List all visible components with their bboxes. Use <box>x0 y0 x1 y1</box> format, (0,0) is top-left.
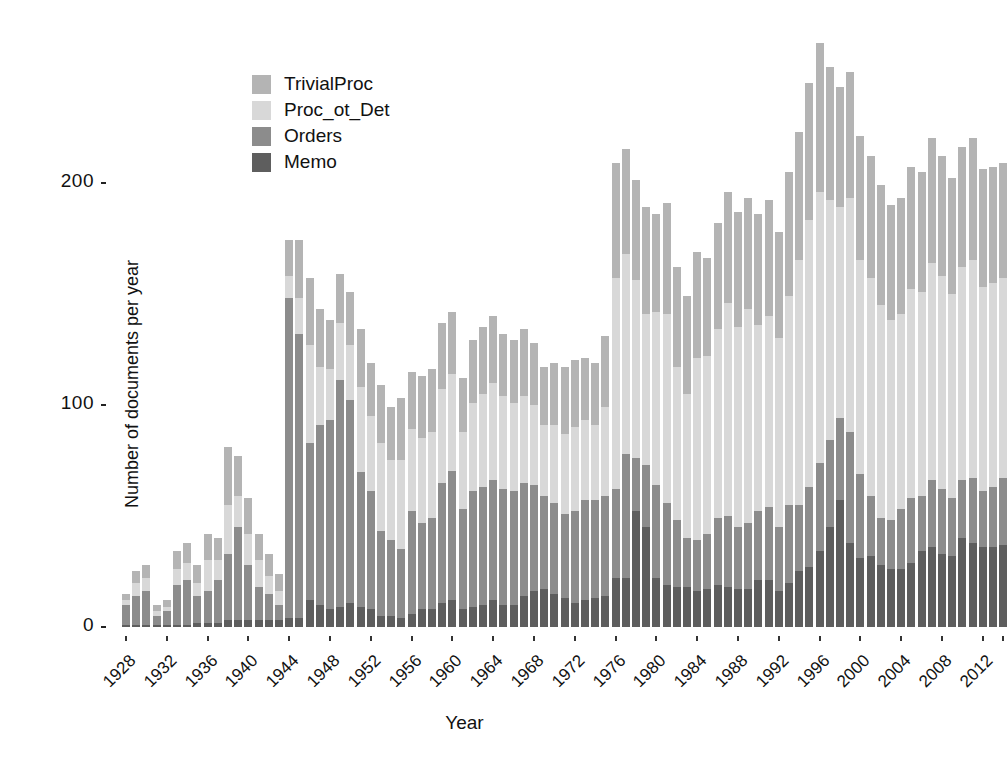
bar-segment-memo <box>561 598 569 627</box>
bar-segment-proc_ot_det <box>612 278 620 489</box>
legend-item: Orders <box>252 124 390 148</box>
bar-segment-proc_ot_det <box>255 560 263 587</box>
bar-segment-memo <box>346 603 354 627</box>
bar-segment-memo <box>469 607 477 627</box>
bar-segment-proc_ot_det <box>397 460 405 549</box>
bar-segment-proc_ot_det <box>999 278 1007 478</box>
bar-segment-orders <box>581 500 589 600</box>
bar-segment-memo <box>357 607 365 627</box>
bar-column <box>958 147 966 627</box>
bar-segment-trivialproc <box>642 207 650 314</box>
bar-segment-orders <box>887 520 895 569</box>
bar-column <box>683 296 691 627</box>
bar-segment-orders <box>459 509 467 609</box>
x-tick-mark <box>778 636 780 641</box>
bar-segment-proc_ot_det <box>530 405 538 485</box>
bar-segment-trivialproc <box>897 198 905 314</box>
bar-segment-memo <box>907 563 915 627</box>
bar-column <box>622 149 630 627</box>
bar-column <box>938 156 946 627</box>
bar-segment-memo <box>673 587 681 627</box>
bar-segment-proc_ot_det <box>775 338 783 527</box>
bar-segment-proc_ot_det <box>367 416 375 492</box>
bar-segment-proc_ot_det <box>346 345 354 401</box>
bar-segment-memo <box>479 605 487 627</box>
bar-segment-orders <box>346 400 354 602</box>
bar-segment-memo <box>336 607 344 627</box>
bar-column <box>142 565 150 627</box>
bar-segment-trivialproc <box>724 192 732 303</box>
bar-segment-memo <box>173 625 181 627</box>
bar-segment-proc_ot_det <box>510 403 518 492</box>
bar-segment-trivialproc <box>183 543 191 563</box>
bar-column <box>387 407 395 627</box>
bar-segment-memo <box>550 594 558 627</box>
bar-segment-proc_ot_det <box>795 260 803 504</box>
bar-column <box>703 258 711 627</box>
bar-segment-orders <box>479 487 487 605</box>
bar-segment-memo <box>520 596 528 627</box>
bar-column <box>336 274 344 627</box>
bar-segment-trivialproc <box>703 258 711 356</box>
bar-segment-orders <box>275 605 283 621</box>
bar-segment-proc_ot_det <box>652 312 660 485</box>
bar-segment-orders <box>754 511 762 580</box>
bar-column <box>357 329 365 627</box>
bar-segment-proc_ot_det <box>387 460 395 540</box>
bar-column <box>244 498 252 627</box>
bar-segment-proc_ot_det <box>295 298 303 334</box>
bar-segment-memo <box>918 551 926 627</box>
bar-column <box>295 240 303 627</box>
bar-segment-proc_ot_det <box>418 438 426 522</box>
bar-segment-trivialproc <box>652 214 660 312</box>
bar-segment-trivialproc <box>173 551 181 569</box>
bar-segment-memo <box>367 609 375 627</box>
bar-segment-orders <box>958 480 966 538</box>
bar-segment-trivialproc <box>958 147 966 267</box>
bar-segment-trivialproc <box>285 240 293 276</box>
bar-segment-orders <box>775 527 783 591</box>
bar-segment-memo <box>836 500 844 627</box>
bar-segment-memo <box>744 589 752 627</box>
bar-segment-memo <box>928 547 936 627</box>
bar-segment-memo <box>765 580 773 627</box>
bar-segment-orders <box>550 503 558 594</box>
bar-segment-proc_ot_det <box>469 403 477 492</box>
bar-segment-memo <box>183 625 191 627</box>
bar-segment-memo <box>887 569 895 627</box>
bar-segment-memo <box>754 580 762 627</box>
bar-segment-orders <box>510 491 518 604</box>
bar-segment-memo <box>652 578 660 627</box>
bar-segment-orders <box>765 507 773 580</box>
x-tick-mark <box>574 636 576 641</box>
bar-column <box>540 367 548 627</box>
bar-column <box>214 538 222 627</box>
bar-segment-proc_ot_det <box>754 325 762 512</box>
bar-segment-proc_ot_det <box>173 569 181 585</box>
bar-segment-proc_ot_det <box>357 387 365 471</box>
bar-segment-trivialproc <box>377 385 385 443</box>
bar-segment-orders <box>387 540 395 616</box>
bar-segment-proc_ot_det <box>459 432 467 510</box>
bar-segment-orders <box>785 505 793 583</box>
bar-column <box>673 267 681 627</box>
bar-segment-orders <box>173 585 181 625</box>
x-tick-mark <box>451 636 453 641</box>
bar-segment-trivialproc <box>601 336 609 407</box>
bar-segment-orders <box>265 594 273 621</box>
x-tick-mark <box>166 636 168 641</box>
bar-segment-trivialproc <box>295 240 303 298</box>
bar-column <box>285 240 293 627</box>
bar-column <box>520 329 528 627</box>
bar-segment-proc_ot_det <box>744 309 752 522</box>
bar-segment-trivialproc <box>887 205 895 321</box>
bar-column <box>601 336 609 627</box>
bar-segment-orders <box>744 523 752 590</box>
bar-segment-memo <box>499 605 507 627</box>
bar-segment-proc_ot_det <box>244 534 252 565</box>
bar-segment-trivialproc <box>744 198 752 309</box>
bar-segment-proc_ot_det <box>826 200 834 440</box>
bar-segment-memo <box>193 623 201 627</box>
bar-segment-trivialproc <box>795 132 803 261</box>
bar-segment-proc_ot_det <box>581 420 589 500</box>
